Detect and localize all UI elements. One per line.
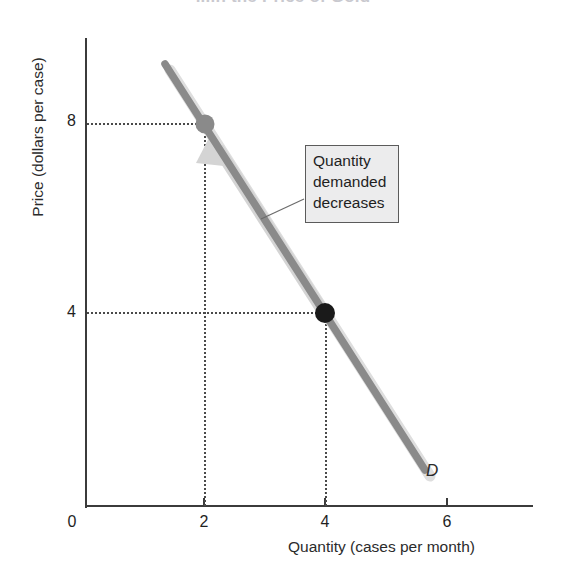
- demand-curve-label: D: [426, 461, 438, 481]
- annotation-line-3: decreases: [313, 193, 398, 214]
- data-point-b-marker: [315, 303, 335, 323]
- annotation-leader-line: [261, 199, 304, 219]
- annotation-line-2: demanded: [313, 172, 398, 193]
- annotation-box: Quantity demanded decreases: [305, 145, 399, 223]
- plot-graphics: [0, 0, 566, 582]
- chart-figure: ...in the Price of Gold Price (dollars p…: [0, 0, 566, 582]
- data-point-a-marker: [196, 115, 215, 134]
- annotation-line-1: Quantity: [313, 151, 398, 172]
